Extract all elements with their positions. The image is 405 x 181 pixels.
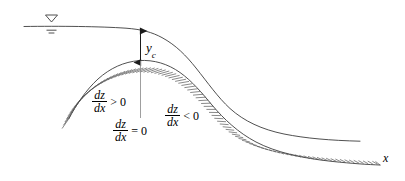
slope-negative-label: dz dx < 0 [165, 103, 199, 128]
slope-positive-denominator: dx [92, 102, 107, 114]
free-surface-symbol [46, 15, 58, 33]
critical-depth-subscript: c [152, 50, 156, 60]
slope-positive-relation: > 0 [107, 96, 126, 108]
slope-zero-denominator: dx [113, 131, 128, 143]
bed-hatching [62, 68, 380, 165]
slope-zero-label: dz dx = 0 [113, 118, 147, 143]
slope-positive-label: dz dx > 0 [92, 89, 126, 114]
slope-negative-denominator: dx [165, 116, 180, 128]
x-axis-label: x [383, 152, 388, 164]
diagram-canvas [0, 0, 405, 181]
flow-over-hump-diagram: yc dz dx > 0 dz dx = 0 dz dx < 0 x [0, 0, 405, 181]
slope-negative-relation: < 0 [180, 110, 199, 122]
slope-negative-fraction: dz dx [165, 103, 180, 128]
critical-depth-symbol: y [146, 40, 152, 55]
slope-positive-fraction: dz dx [92, 89, 107, 114]
critical-depth-label: yc [146, 41, 156, 58]
slope-zero-fraction: dz dx [113, 118, 128, 143]
slope-zero-relation: = 0 [128, 125, 147, 137]
